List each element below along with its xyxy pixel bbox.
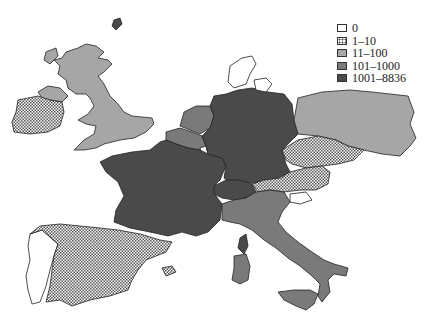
region-ireland bbox=[12, 96, 64, 134]
legend-label-1-10: 1–10 bbox=[352, 35, 376, 47]
legend-swatch-11-100 bbox=[337, 49, 347, 57]
legend-label-0: 0 bbox=[352, 22, 358, 34]
legend-item-1001-8836: 1001–8836 bbox=[337, 72, 406, 85]
legend-item-1-10: 1–10 bbox=[337, 35, 406, 48]
region-france bbox=[100, 140, 226, 236]
map-legend: 0 1–10 11–100 101–1000 1001–8836 bbox=[337, 22, 406, 85]
legend-item-0: 0 bbox=[337, 22, 406, 35]
legend-item-11-100: 11–100 bbox=[337, 47, 406, 60]
region-sicily bbox=[278, 290, 318, 310]
region-slovenia bbox=[290, 192, 312, 204]
legend-swatch-101-1000 bbox=[337, 62, 347, 70]
legend-swatch-1001-8836 bbox=[337, 74, 347, 82]
region-corsica bbox=[238, 234, 248, 254]
legend-label-11-100: 11–100 bbox=[352, 47, 388, 59]
legend-label-101-1000: 101–1000 bbox=[352, 60, 400, 72]
region-uk-islands bbox=[112, 18, 122, 30]
region-denmark bbox=[228, 56, 256, 88]
region-denmark-islands bbox=[254, 78, 272, 92]
legend-swatch-1-10 bbox=[337, 37, 347, 45]
region-balearic-islands bbox=[162, 266, 176, 276]
region-united-kingdom bbox=[54, 44, 154, 150]
region-sardinia bbox=[232, 254, 250, 284]
legend-label-1001-8836: 1001–8836 bbox=[352, 72, 406, 84]
legend-item-101-1000: 101–1000 bbox=[337, 60, 406, 73]
legend-swatch-0 bbox=[337, 24, 347, 32]
